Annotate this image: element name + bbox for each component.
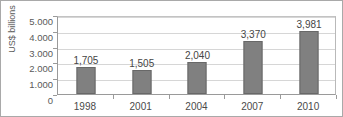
bar-value-label: 1,505 <box>129 58 154 69</box>
bar-value-label: 1,705 <box>73 55 98 66</box>
y-axis-tick-label: 3.000 <box>23 48 53 60</box>
y-axis-tick-label: 1.000 <box>23 79 53 91</box>
x-axis-category-label: 1998 <box>57 100 113 113</box>
y-axis-tick-mark <box>53 16 57 17</box>
x-axis-tick-mark <box>113 95 114 99</box>
x-axis-category-label: 2001 <box>113 100 169 113</box>
y-axis-tick-mark <box>53 79 57 80</box>
y-axis-tick-mark <box>53 95 57 96</box>
x-axis-tick-mark <box>336 95 337 99</box>
bar-value-label: 3,981 <box>297 19 322 30</box>
y-axis-tick-label: 0 <box>23 95 53 107</box>
bar[interactable] <box>132 70 151 94</box>
bar[interactable] <box>300 31 319 94</box>
y-axis-tick-mark <box>53 48 57 49</box>
bar-slot: 3,981 <box>281 17 337 94</box>
x-axis-tick-mark <box>224 95 225 99</box>
y-axis-tick-label: 4.000 <box>23 32 53 44</box>
bar-slot: 2,040 <box>170 17 226 94</box>
bar-value-label: 3,370 <box>241 29 266 40</box>
bar-slot: 1,505 <box>114 17 170 94</box>
bar-slot: 1,705 <box>58 17 114 94</box>
bar[interactable] <box>188 62 207 94</box>
bar-value-label: 2,040 <box>185 50 210 61</box>
bar-slot: 3,370 <box>225 17 281 94</box>
y-axis-title: US$ billions <box>6 0 18 64</box>
bars-group: 1,7051,5052,0403,3703,981 <box>58 17 335 94</box>
x-axis-tick-mark <box>280 95 281 99</box>
y-axis-tick-mark <box>53 32 57 33</box>
y-axis-tick-mark <box>53 63 57 64</box>
y-axis-tick-labels: 01.0002.0003.0004.0005.000 <box>23 10 53 102</box>
plot-area: 1,7051,5052,0403,3703,981 <box>57 16 336 95</box>
x-axis-tick-mark <box>169 95 170 99</box>
x-axis-category-label: 2010 <box>280 100 336 113</box>
x-axis-category-label: 2007 <box>224 100 280 113</box>
bar[interactable] <box>76 67 95 94</box>
x-axis-category-labels: 19982001200420072010 <box>57 100 336 114</box>
y-axis-tick-label: 5.000 <box>23 16 53 28</box>
bar[interactable] <box>244 41 263 94</box>
bar-chart: US$ billions 01.0002.0003.0004.0005.000 … <box>0 0 343 117</box>
y-axis-tick-label: 2.000 <box>23 63 53 75</box>
x-axis-category-label: 2004 <box>169 100 225 113</box>
